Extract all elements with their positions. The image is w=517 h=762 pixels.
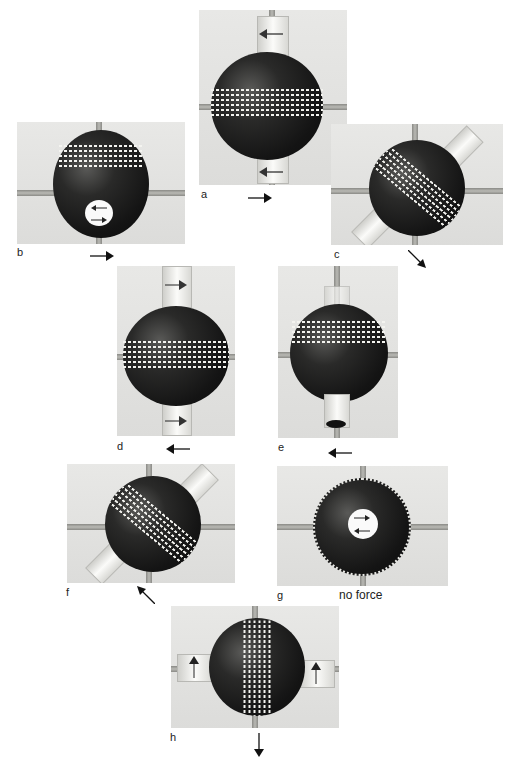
panel-g-photo: [277, 466, 448, 586]
force-arrow-right-icon: [248, 192, 272, 204]
tube-end: [326, 420, 346, 428]
seam: [369, 140, 465, 236]
cricket-ball: [209, 618, 305, 716]
panel-c-label: c: [334, 248, 340, 260]
cricket-ball: [369, 140, 465, 236]
force-arrow-up-left-icon: [137, 586, 155, 604]
panel-b-label: b: [17, 246, 23, 258]
seam: [292, 318, 386, 346]
tube-arrow-right-icon: [91, 216, 107, 224]
cricket-ball: [123, 306, 229, 406]
seam: [241, 621, 274, 717]
force-arrow-left-icon: [166, 443, 190, 455]
no-force-caption: no force: [339, 588, 382, 602]
tube-arrow-up-icon: [189, 656, 199, 678]
panel-h-label: h: [170, 731, 176, 743]
force-arrow-right-icon: [90, 250, 114, 262]
cricket-ball: [211, 52, 323, 160]
panel-e-label: e: [278, 441, 284, 453]
seam: [211, 86, 323, 119]
panel-g-label: g: [277, 589, 283, 601]
seam: [59, 142, 143, 170]
cricket-ball: [290, 304, 388, 402]
force-arrow-down-icon: [253, 733, 265, 757]
tube-arrow-left-icon: [259, 166, 285, 178]
panel-c-photo: [331, 124, 503, 245]
seam: [123, 338, 229, 371]
tube-arrow-left-icon: [354, 527, 370, 535]
force-arrow-down-right-icon: [408, 250, 426, 268]
force-arrow-left-icon: [328, 447, 352, 459]
tube-arrow-right-icon: [354, 514, 370, 522]
cricket-ball: [105, 476, 201, 572]
panel-a-label: a: [201, 188, 207, 200]
tube-arrow-up-icon: [311, 662, 321, 684]
tube-arrow-left-icon: [91, 204, 107, 212]
panel-e-photo: [278, 266, 398, 438]
panel-h-photo: [171, 606, 339, 728]
panel-d-label: d: [117, 440, 123, 452]
panel-a-photo: [199, 10, 347, 185]
seam: [105, 476, 201, 572]
panel-b-photo: [17, 122, 185, 244]
tube-arrow-right-icon: [165, 416, 187, 426]
panel-d-photo: [117, 266, 235, 436]
panel-f-photo: [67, 464, 235, 583]
tube-arrow-right-icon: [165, 280, 187, 290]
panel-f-label: f: [66, 586, 69, 598]
tube-arrow-left-icon: [259, 28, 285, 40]
